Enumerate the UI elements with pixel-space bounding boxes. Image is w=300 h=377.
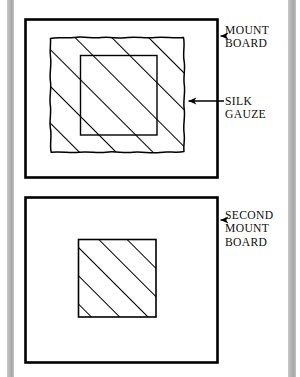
- second-gauze-hatch-fill: [79, 240, 157, 318]
- label-second-mount-board: SECOND MOUNT BOARD: [225, 209, 273, 249]
- bottom-figure-group: [26, 198, 218, 363]
- silk-gauze-hatch-fill: [48, 35, 188, 155]
- label-silk-gauze: SILK GAUZE: [225, 95, 266, 122]
- top-figure-group: [26, 20, 218, 178]
- diagram-canvas: [0, 0, 300, 377]
- label-mount-board: MOUNT BOARD: [225, 24, 269, 51]
- diagram-page: MOUNT BOARD SILK GAUZE SECOND MOUNT BOAR…: [0, 0, 300, 377]
